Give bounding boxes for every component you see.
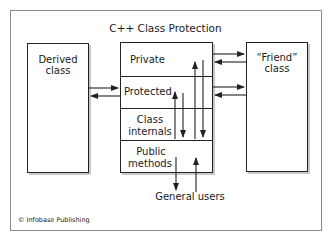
class-protection-box: Private Protected Class internals Public… xyxy=(120,42,213,173)
class-internals-label-2: internals xyxy=(123,126,177,137)
copyright-footer: © Infobase Publishing xyxy=(18,216,90,224)
derived-class-box: Derived class xyxy=(27,43,89,173)
public-methods-label-1: Public xyxy=(133,146,169,157)
diagram-title: C++ Class Protection xyxy=(0,22,331,34)
friend-class-box: “Friend” class xyxy=(246,42,308,172)
private-label: Private xyxy=(130,54,165,65)
derived-class-label-1: Derived xyxy=(28,54,88,65)
section-private: Private xyxy=(121,43,212,76)
section-public-methods: Public methods xyxy=(121,140,212,174)
class-internals-label-1: Class xyxy=(135,114,165,125)
section-class-internals: Class internals xyxy=(121,108,212,141)
derived-class-label-2: class xyxy=(28,65,88,76)
friend-class-label-1: “Friend” xyxy=(247,52,307,63)
protected-label: Protected xyxy=(124,86,172,97)
friend-class-label-2: class xyxy=(247,63,307,74)
section-protected: Protected xyxy=(121,76,212,109)
general-users-label: General users xyxy=(150,191,230,202)
public-methods-label-2: methods xyxy=(123,158,177,169)
